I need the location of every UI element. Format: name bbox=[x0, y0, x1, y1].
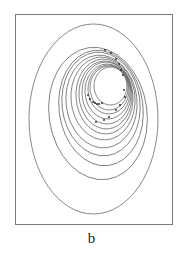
data-point bbox=[98, 103, 100, 105]
data-point bbox=[115, 58, 117, 60]
panel-label: b bbox=[0, 230, 183, 247]
data-point bbox=[108, 116, 110, 118]
contour-plot bbox=[0, 0, 183, 256]
data-point bbox=[124, 96, 126, 98]
data-point bbox=[87, 94, 89, 96]
data-point bbox=[101, 102, 103, 104]
data-point bbox=[110, 52, 112, 54]
data-point bbox=[118, 63, 120, 65]
data-point bbox=[115, 109, 117, 111]
data-point bbox=[104, 49, 106, 51]
figure-panel-b: b bbox=[0, 0, 183, 256]
data-point bbox=[120, 69, 122, 71]
data-point bbox=[89, 98, 91, 100]
nested-contour bbox=[94, 67, 127, 105]
data-point bbox=[119, 104, 121, 106]
data-point bbox=[94, 102, 96, 104]
data-point bbox=[92, 101, 94, 103]
nested-contour bbox=[40, 41, 156, 186]
data-point bbox=[122, 74, 124, 76]
data-point bbox=[123, 89, 125, 91]
data-point bbox=[95, 121, 97, 123]
data-point bbox=[103, 119, 105, 121]
data-point bbox=[96, 103, 98, 105]
